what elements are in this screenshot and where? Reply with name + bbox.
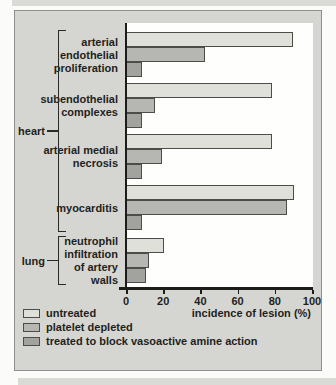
chart-panel: incidence of lesion (%) untreatedplatele… xyxy=(14,10,322,371)
page-top-strip xyxy=(12,0,336,6)
x-axis-line xyxy=(119,287,313,290)
x-tick-label: 40 xyxy=(180,295,220,307)
category-label-1: subendothelial complexes xyxy=(15,93,118,119)
bar-group2-series1 xyxy=(127,149,162,164)
heart-label: heart xyxy=(15,125,45,137)
x-tick xyxy=(238,290,240,294)
category-label-2: arterial medial necrosis xyxy=(15,144,118,170)
page-bottom-strip xyxy=(18,378,336,385)
bar-group0-series2 xyxy=(127,62,142,77)
legend-row-0: untreated xyxy=(23,306,258,320)
bar-group1-series1 xyxy=(127,98,155,113)
x-tick xyxy=(312,290,314,294)
bar-group2-series2 xyxy=(127,164,142,179)
bar-group0-series1 xyxy=(127,47,205,62)
legend-label-2: treated to block vasoactive amine action xyxy=(46,335,258,347)
category-label-0: arterial endothelial proliferation xyxy=(15,35,118,74)
category-label-3: myocarditis xyxy=(15,201,118,214)
bar-group1-series0 xyxy=(127,83,272,98)
x-tick xyxy=(126,290,128,294)
page: { "chart_data": { "type": "bar", "orient… xyxy=(0,0,336,385)
legend-swatch-1 xyxy=(23,323,40,332)
bar-group4-series2 xyxy=(127,268,146,283)
x-tick-label: 0 xyxy=(106,295,146,307)
heart-bracket xyxy=(58,30,66,232)
bar-group2-series0 xyxy=(127,134,272,149)
legend-row-2: treated to block vasoactive amine action xyxy=(23,334,258,348)
bar-group3-series0 xyxy=(127,185,294,200)
legend: untreatedplatelet depletedtreated to blo… xyxy=(23,306,258,348)
legend-swatch-0 xyxy=(23,309,40,318)
x-tick-label: 100 xyxy=(292,295,332,307)
bar-group0-series0 xyxy=(127,32,293,47)
legend-row-1: platelet depleted xyxy=(23,320,258,334)
legend-label-1: platelet depleted xyxy=(46,321,133,333)
lung-label: lung xyxy=(15,255,45,267)
lung-bracket xyxy=(58,236,66,285)
bar-group4-series0 xyxy=(127,238,164,253)
legend-label-0: untreated xyxy=(46,307,96,319)
x-tick-label: 20 xyxy=(143,295,183,307)
lung-bracket-connector xyxy=(47,260,58,262)
bar-group1-series2 xyxy=(127,113,142,128)
heart-bracket-connector xyxy=(47,130,58,132)
bar-group3-series2 xyxy=(127,215,142,230)
x-tick xyxy=(200,290,202,294)
bar-group3-series1 xyxy=(127,200,287,215)
bar-group4-series1 xyxy=(127,253,149,268)
x-tick xyxy=(163,290,165,294)
legend-swatch-2 xyxy=(23,337,40,346)
x-tick-label: 80 xyxy=(255,295,295,307)
plot-area xyxy=(125,23,313,287)
x-tick-label: 60 xyxy=(218,295,258,307)
x-tick xyxy=(275,290,277,294)
